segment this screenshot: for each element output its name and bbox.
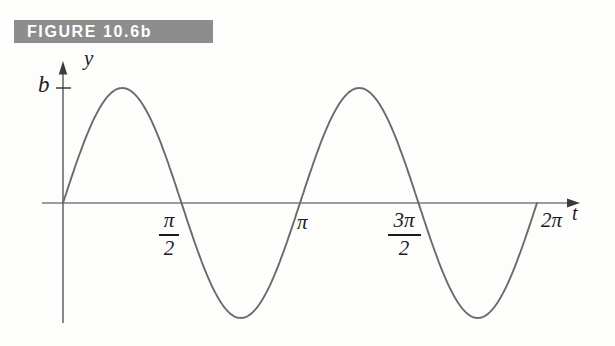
tick-label-pi-over-2: π 2 [152, 210, 186, 259]
fraction-numerator: π [164, 210, 175, 231]
t-axis-label: t [572, 203, 578, 223]
y-axis-label: y [84, 48, 93, 69]
tick-label-2pi: 2π [541, 210, 562, 231]
fraction-denominator: 2 [399, 238, 410, 259]
tick-label-pi: π [297, 212, 308, 233]
y-axis-arrow-icon [59, 61, 67, 75]
fraction-numerator: 3π [393, 210, 414, 231]
tick-label-3pi-over-2: 3π 2 [382, 210, 426, 259]
fraction-denominator: 2 [164, 238, 175, 259]
figure-page: FIGURE 10.6b y t b π 2 π 3π 2 2π [0, 0, 615, 346]
b-tick-label: b [38, 73, 50, 96]
